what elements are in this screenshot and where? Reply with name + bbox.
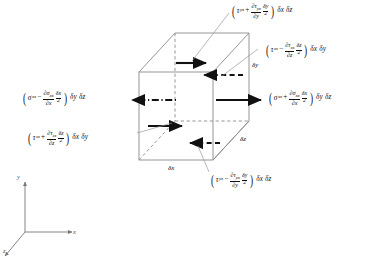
bracket-open: ( [23, 92, 26, 105]
bracket-open: ( [28, 132, 31, 145]
leader-lower-left-tau-zx [137, 123, 172, 133]
cube-wireframe [139, 33, 249, 160]
area-term: δx δy [309, 46, 326, 53]
label-top-tau-yx-plus: ( τyx + ∂τyx ∂y δy 2 ) δx δz [231, 3, 293, 19]
operator: + [245, 7, 250, 14]
half-delta-fraction: δy 2 [262, 4, 269, 17]
fraction-denominator: 2 [243, 180, 246, 186]
leader-top-tau-yx [192, 13, 229, 61]
tau-subscript: zx [36, 135, 40, 140]
fraction-denominator: ∂y [232, 181, 238, 188]
cube-edge-top-right [213, 33, 249, 72]
bracket-close: ) [304, 44, 307, 57]
dimension-label-delta-x: δx [168, 164, 174, 172]
label-right-tau-zx-minus: ( τzx − ∂τzx ∂z δz 2 ) δx δy [265, 42, 326, 58]
tau-subscript: zx [274, 47, 278, 52]
fraction-numerator: ∂σxx [43, 90, 53, 99]
fraction-denominator: ∂y [253, 12, 259, 19]
half-delta-fraction: δz 2 [58, 131, 65, 144]
fraction-numerator: ∂τyx [230, 172, 239, 181]
coordinate-axes [5, 182, 72, 256]
partial-derivative-fraction: ∂σxx ∂x [43, 90, 55, 106]
fraction-denominator: 2 [303, 98, 306, 104]
operator: − [278, 46, 283, 53]
area-term: δx δy [71, 134, 88, 141]
bracket-close: ) [66, 132, 69, 145]
bracket-close: ) [310, 92, 313, 105]
fraction-numerator: ∂τzx [285, 42, 294, 51]
operator: − [224, 176, 229, 183]
label-lower-left-tau-zx-plus: ( τzx + ∂τzx ∂z δz 2 ) δx δy [27, 130, 88, 146]
fraction-numerator: ∂τzx [47, 130, 56, 139]
fraction-denominator: ∂z [49, 139, 54, 146]
bracket-open: ( [266, 44, 269, 57]
bracket-close: ) [64, 92, 67, 105]
fraction-numerator: ∂σxx [289, 90, 299, 99]
fraction-numerator: ∂τyx [251, 3, 260, 12]
fraction-denominator: 2 [298, 50, 301, 56]
fraction-denominator: 2 [57, 98, 60, 104]
bracket-close: ) [250, 174, 253, 187]
figure-canvas: ( τyx + ∂τyx ∂y δy 2 ) δx δz ( τzx − ∂τz… [0, 0, 367, 261]
fraction-denominator: 2 [60, 138, 63, 144]
axis-label-x: x [73, 228, 76, 235]
half-delta-fraction: δz 2 [296, 43, 303, 56]
bracket-open: ( [211, 174, 214, 187]
area-term: δy δz [68, 94, 85, 101]
cube-edge-top-left [139, 33, 175, 72]
half-delta-fraction: δy 2 [241, 173, 248, 186]
axis-z-line [5, 232, 25, 256]
fraction-denominator: ∂z [287, 51, 292, 58]
operator: + [40, 134, 45, 141]
bracket-open: ( [269, 92, 272, 105]
label-left-sigma-xx-minus: ( σxx − ∂σxx ∂x δx 2 ) δy δz [22, 90, 85, 106]
cube-front-face [139, 72, 213, 160]
sigma-subscript: xx [32, 95, 36, 100]
half-delta-fraction: δx 2 [301, 91, 308, 104]
area-term: δx δz [276, 7, 293, 14]
fraction-denominator: ∂x [292, 99, 298, 106]
bracket-close: ) [271, 5, 274, 18]
partial-derivative-fraction: ∂τzx ∂z [284, 42, 295, 58]
area-term: δx δz [255, 176, 272, 183]
dimension-label-delta-y: δy [252, 61, 258, 69]
operator: + [283, 94, 288, 101]
partial-derivative-fraction: ∂τyx ∂y [251, 3, 262, 19]
area-term: δy δz [314, 94, 331, 101]
label-bottom-tau-yx-minus: ( τyx − ∂τyx ∂y δy 2 ) δx δz [210, 172, 272, 188]
bracket-open: ( [232, 5, 235, 18]
half-delta-fraction: δx 2 [55, 91, 62, 104]
leader-lines [137, 13, 258, 172]
partial-derivative-fraction: ∂τzx ∂z [46, 130, 57, 146]
dimension-label-delta-z: δz [240, 135, 246, 143]
axis-label-y: y [17, 173, 20, 180]
label-right-sigma-xx-plus: ( σxx + ∂σxx ∂x δx 2 ) δy δz [268, 90, 331, 106]
partial-derivative-fraction: ∂τyx ∂y [230, 172, 241, 188]
fraction-denominator: 2 [264, 11, 267, 17]
sigma-symbol: σ [28, 94, 32, 101]
operator: − [37, 94, 42, 101]
fraction-denominator: ∂x [46, 99, 52, 106]
axis-label-z: z [3, 247, 6, 254]
sigma-symbol: σ [274, 94, 278, 101]
sigma-subscript: xx [278, 95, 282, 100]
tau-subscript: yx [240, 8, 244, 13]
leader-bottom-tau-yx [198, 146, 209, 172]
tau-subscript: yx [219, 177, 223, 182]
partial-derivative-fraction: ∂σxx ∂x [289, 90, 301, 106]
